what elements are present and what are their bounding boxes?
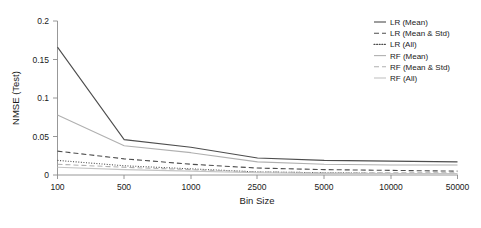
y-tick-group: 0 0.05 0.1 0.15 0.2 — [32, 16, 57, 180]
legend-label-5: RF (All) — [390, 74, 417, 83]
x-tick-group: 100 500 1000 2500 5000 10000 50000 — [50, 175, 469, 192]
y-tick-label-1: 0.05 — [32, 132, 49, 142]
x-axis-title: Bin Size — [240, 195, 275, 206]
x-tick-label-1: 500 — [117, 182, 131, 192]
chart-legend: LR (Mean)LR (Mean & Std)LR (All)RF (Mean… — [374, 18, 450, 83]
x-tick-label-5: 10000 — [379, 182, 403, 192]
x-tick-label-3: 2500 — [248, 182, 267, 192]
y-tick-label-3: 0.15 — [32, 55, 49, 65]
y-tick-label-0: 0 — [44, 170, 49, 180]
y-tick-label-4: 0.2 — [37, 16, 49, 26]
x-tick-label-0: 100 — [50, 182, 64, 192]
x-tick-label-2: 1000 — [182, 182, 201, 192]
series-line-3 — [58, 115, 458, 165]
legend-label-2: LR (All) — [390, 40, 417, 49]
legend-label-1: LR (Mean & Std) — [390, 29, 450, 38]
line-chart: 0 0.05 0.1 0.15 0.2 100 500 1000 2500 50… — [0, 0, 481, 228]
y-axis-title: NMSE (Test) — [10, 71, 21, 125]
x-tick-label-4: 5000 — [315, 182, 334, 192]
legend-label-0: LR (Mean) — [390, 18, 428, 27]
chart-figure: 0 0.05 0.1 0.15 0.2 100 500 1000 2500 50… — [0, 0, 481, 228]
x-tick-label-6: 50000 — [446, 182, 470, 192]
legend-label-3: RF (Mean) — [390, 52, 429, 61]
y-tick-label-2: 0.1 — [37, 93, 49, 103]
legend-label-4: RF (Mean & Std) — [390, 63, 450, 72]
